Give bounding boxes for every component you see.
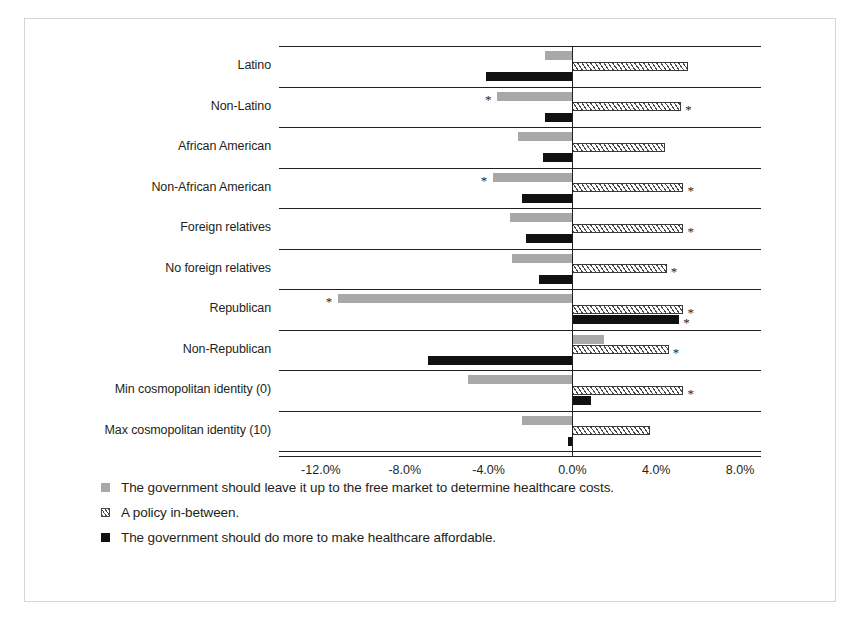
chart-figure: LatinoNon-LatinoAfrican AmericanNon-Afri… [24,18,836,602]
chart-gridline [279,168,761,169]
chart-gridline [279,249,761,250]
bar-do_more [526,234,572,243]
chart-gridline [279,127,761,128]
legend-label-do-more: The government should do more to make he… [121,530,496,545]
bar-in_between [572,426,650,435]
bar-in_between [572,386,683,395]
significance-star: * [671,265,678,278]
bar-free_market [545,51,572,60]
bar-do_more [545,113,572,122]
significance-star: * [481,174,488,187]
category-label: Min cosmopolitan identity (0) [31,382,271,396]
legend-item-in-between: A policy in-between. [101,500,801,525]
bar-in_between [572,183,683,192]
legend-item-do-more: The government should do more to make he… [101,525,801,550]
bar-in_between [572,345,668,354]
significance-star: * [687,184,694,197]
bar-free_market [338,294,573,303]
bar-in_between [572,102,681,111]
category-label: No foreign relatives [31,261,271,275]
x-axis-line [279,456,761,457]
bar-do_more [543,153,572,162]
bar-do_more [539,275,573,284]
bar-in_between [572,143,664,152]
significance-star: * [673,346,680,359]
chart-gridline [279,208,761,209]
bar-free_market [512,254,573,263]
chart-gridline [279,370,761,371]
chart-gridline [279,46,761,47]
chart-gridline [279,451,761,452]
grey-square-swatch [101,483,110,492]
significance-star: * [685,103,692,116]
bar-free_market [572,335,603,344]
significance-star: * [687,225,694,238]
legend-item-free-market: The government should leave it up to the… [101,475,801,500]
category-label: Non-Republican [31,342,271,356]
chart-gridline [279,87,761,88]
bar-free_market [522,416,572,425]
black-square-swatch [101,533,110,542]
bar-free_market [518,132,572,141]
bar-do_more [572,396,591,405]
category-label: Latino [31,58,271,72]
legend-label-free-market: The government should leave it up to the… [121,480,614,495]
chart-gridline [279,411,761,412]
bar-in_between [572,305,683,314]
bar-do_more [522,194,572,203]
bar-in_between [572,224,683,233]
category-label: Foreign relatives [31,220,271,234]
hatched-square-swatch [101,508,110,517]
bar-in_between [572,62,687,71]
chart-gridline [279,289,761,290]
zero-axis-line [572,46,574,457]
bar-free_market [493,173,573,182]
significance-star: * [687,387,694,400]
significance-star: * [485,93,492,106]
bar-do_more [428,356,573,365]
significance-star: * [326,295,333,308]
significance-star: * [683,316,690,329]
legend-label-in-between: A policy in-between. [121,505,239,520]
category-label: Max cosmopolitan identity (10) [31,423,271,437]
bar-free_market [497,92,572,101]
category-label: Non-Latino [31,99,271,113]
bar-free_market [510,213,573,222]
category-label: African American [31,139,271,153]
bar-do_more [486,72,572,81]
chart-gridline [279,330,761,331]
category-label: Non-African American [31,180,271,194]
chart-legend: The government should leave it up to the… [101,475,801,550]
bar-free_market [468,375,573,384]
bar-in_between [572,264,666,273]
bar-do_more [572,315,679,324]
category-label: Republican [31,301,271,315]
